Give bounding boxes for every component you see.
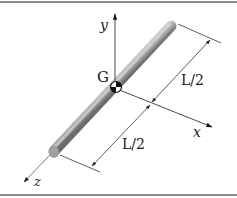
extension-line-top <box>178 24 221 43</box>
diagram-canvas <box>0 0 237 198</box>
y-axis-label: y <box>100 18 108 32</box>
rod <box>49 25 173 158</box>
half-length-label-upper: L/2 <box>181 73 204 87</box>
rod-diagram: G y x z L/2 L/2 <box>0 0 237 198</box>
z-axis-label: z <box>34 175 41 188</box>
half-length-label-lower: L/2 <box>122 137 145 151</box>
x-axis <box>117 89 212 127</box>
x-axis-label: x <box>193 125 201 139</box>
dimension-line-upper <box>152 40 210 102</box>
rod-end-cap <box>49 147 59 158</box>
center-of-mass-label: G <box>97 70 109 85</box>
center-of-mass-icon <box>111 82 122 93</box>
